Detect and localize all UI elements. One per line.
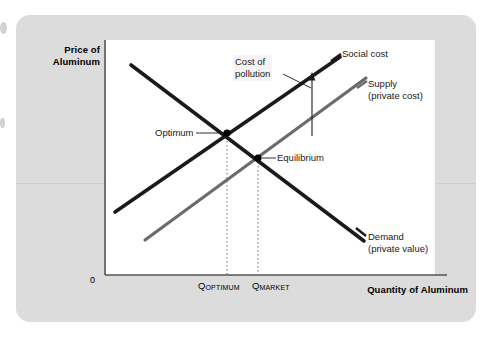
social-cost-label-text: Social cost [342, 48, 388, 59]
y-axis-title: Price of Aluminum [30, 44, 100, 67]
figure-page: Price of Aluminum Quantity of Aluminum 0… [0, 0, 491, 337]
demand-label: Demand (private value) [368, 231, 428, 254]
q-optimum-subscript: OPTIMUM [205, 284, 239, 291]
cost-of-pollution-line1: Cost of [235, 56, 270, 68]
cost-of-pollution-line2: pollution [235, 68, 270, 80]
supply-label: Supply (private cost) [368, 78, 423, 101]
social-cost-label: Social cost [342, 48, 388, 60]
supply-label-line1: Supply [368, 78, 423, 90]
demand-label-line2: (private value) [368, 243, 428, 255]
equilibrium-label: Equilibrium [277, 152, 324, 164]
demand-label-line1: Demand [368, 231, 428, 243]
optimum-point-marker [223, 129, 230, 136]
origin-label: 0 [90, 275, 95, 285]
optimum-label: Optimum [155, 127, 194, 139]
cost-of-pollution-label: Cost of pollution [233, 55, 272, 81]
q-market-subscript: MARKET [259, 284, 289, 291]
x-axis-title-text: Quantity of Aluminum [367, 284, 468, 295]
supply-label-line2: (private cost) [368, 90, 423, 102]
equilibrium-point-marker [254, 154, 261, 161]
demand-private-value-curve [131, 65, 364, 241]
q-optimum-tick-label: QOPTIMUM [198, 280, 240, 291]
y-axis-title-text: Price of Aluminum [53, 44, 100, 67]
x-axis-title: Quantity of Aluminum [363, 284, 468, 296]
q-market-tick-label: QMARKET [252, 280, 290, 291]
